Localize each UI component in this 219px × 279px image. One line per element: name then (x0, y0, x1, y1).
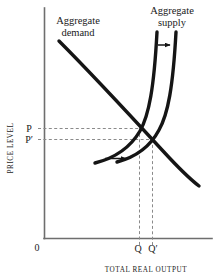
aggregate-supply-label-line2: supply (158, 17, 187, 28)
aggregate-supply-curves-group (95, 32, 176, 163)
guide-lines-group (38, 129, 153, 246)
origin-label: 0 (35, 242, 40, 253)
aggregate-demand-curve (59, 41, 199, 186)
quantity-tick-label-Q-prime: Q′ (148, 243, 157, 254)
axes-group (44, 8, 212, 239)
quantity-tick-label-Q: Q (134, 243, 142, 254)
price-tick-label-P-prime: P′ (25, 134, 33, 145)
aggregate-demand-curve-group (59, 41, 199, 186)
aggregate-supply-label-line1: Aggregate (150, 5, 194, 16)
aggregate-demand-label-line2: demand (61, 27, 95, 38)
curve-labels-group: Aggregate demand Aggregate supply (56, 5, 194, 38)
chart-canvas: Aggregate demand Aggregate supply P P′ Q… (0, 0, 219, 279)
aggregate-supply-curve-shifted (117, 32, 176, 162)
aggregate-supply-demand-figure: Aggregate demand Aggregate supply P P′ Q… (0, 0, 219, 279)
x-axis-title: TOTAL REAL OUTPUT (105, 266, 187, 274)
aggregate-demand-label-line1: Aggregate (56, 15, 100, 26)
price-tick-label-P: P (26, 123, 32, 134)
shift-arrows-group (105, 45, 170, 159)
y-axis-title: PRICE LEVEL (7, 123, 15, 174)
